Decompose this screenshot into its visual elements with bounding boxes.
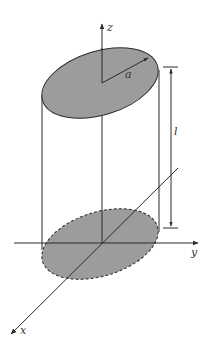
radius-label: a — [125, 68, 132, 81]
bottom-disk — [33, 196, 166, 292]
x-axis-label: x — [20, 324, 27, 337]
z-axis-label: z — [106, 21, 113, 34]
cylinder-diagram: y x z a l — [0, 0, 216, 352]
top-disk — [33, 35, 166, 131]
length-label: l — [174, 125, 178, 138]
x-axis — [11, 168, 178, 334]
y-axis-label: y — [190, 246, 198, 259]
